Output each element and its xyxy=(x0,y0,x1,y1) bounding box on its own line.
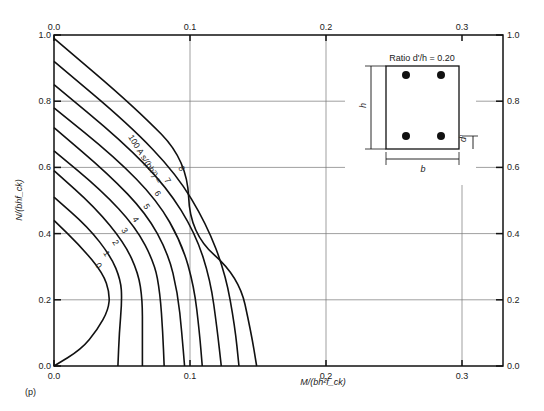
y-tick-label-right: 0.8 xyxy=(507,96,520,106)
curve-3 xyxy=(54,151,164,366)
y-tick-label: 0.4 xyxy=(38,229,51,239)
y-tick-label-right: 0.4 xyxy=(507,229,520,239)
x-tick-label: 0.1 xyxy=(184,371,197,381)
dim-h: h xyxy=(358,103,368,108)
dim-d: d' xyxy=(458,135,468,142)
y-tick-label: 1.0 xyxy=(38,30,51,40)
y-tick-label-right: 1.0 xyxy=(507,30,520,40)
rebar-dot xyxy=(437,71,445,79)
x-axis-label: M/(bh²f_ck) xyxy=(300,377,346,387)
interaction-diagram: 012345678100 A s/(bh²) =0.00.00.10.10.20… xyxy=(0,0,544,411)
y-tick-label-right: 0.6 xyxy=(507,162,520,172)
x-tick-label-top: 0.1 xyxy=(184,22,197,32)
x-tick-label: 0.0 xyxy=(48,371,61,381)
curve-label: 6 xyxy=(152,189,163,199)
rebar-dot xyxy=(402,71,410,79)
curve-label: 7 xyxy=(162,176,173,186)
x-tick-label-top: 0.2 xyxy=(320,22,333,32)
interaction-curves xyxy=(54,38,257,366)
y-tick-label: 0.6 xyxy=(38,162,51,172)
y-tick-label-right: 0.0 xyxy=(507,361,520,371)
x-tick-label: 0.3 xyxy=(456,371,469,381)
column-section-diagram: Ratio d'/h = 0.20hbd' xyxy=(358,53,478,174)
section-outline xyxy=(386,66,459,149)
y-tick-label: 0.0 xyxy=(38,361,51,371)
curve-label: 2 xyxy=(110,238,121,248)
y-tick-label: 0.8 xyxy=(38,96,51,106)
rebar-dot xyxy=(402,132,410,140)
x-tick-label-top: 0.3 xyxy=(456,22,469,32)
curve-label: 8 xyxy=(176,164,187,174)
y-tick-label-right: 0.2 xyxy=(507,295,520,305)
panel-label: (p) xyxy=(25,387,36,397)
axis-labels: M/(bh²f_ck)N/(bhf_ck)(p) xyxy=(14,179,346,397)
ratio-annotation: Ratio d'/h = 0.20 xyxy=(389,53,455,63)
rebar-dot xyxy=(437,132,445,140)
curve-label: 4 xyxy=(130,215,141,225)
y-axis-label: N/(bhf_ck) xyxy=(14,179,24,221)
dim-b: b xyxy=(420,164,425,174)
y-tick-label: 0.2 xyxy=(38,295,51,305)
curve-0 xyxy=(54,220,109,366)
curve-6 xyxy=(54,85,221,366)
curve-label: 5 xyxy=(141,202,152,212)
